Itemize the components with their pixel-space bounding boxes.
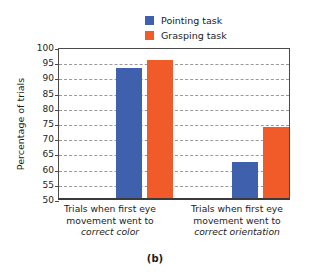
x-axis-label-line: Trials when first eye xyxy=(176,203,298,215)
y-tick-label-90: 90 xyxy=(26,73,54,83)
y-tick-label-85: 85 xyxy=(26,89,54,99)
legend-item-pointing-task: Pointing task xyxy=(145,14,285,27)
x-axis-label-line: movement went to xyxy=(52,215,168,227)
y-tick-label-65: 65 xyxy=(26,149,54,159)
y-axis-tick-labels: 10095908580757065605550 xyxy=(26,48,54,200)
panel-caption: (b) xyxy=(0,253,310,264)
y-tick-label-55: 55 xyxy=(26,180,54,190)
legend-item-grasping-task: Grasping task xyxy=(145,29,285,42)
bar-0-0 xyxy=(116,68,142,198)
x-axis-label-line: correct orientation xyxy=(176,226,298,238)
y-tick-label-95: 95 xyxy=(26,58,54,68)
legend-swatch-grasping-task xyxy=(145,31,154,40)
bar-0-1 xyxy=(232,162,258,198)
y-tick-label-100: 100 xyxy=(26,43,54,53)
plot-area xyxy=(58,48,290,200)
legend-label-grasping-task: Grasping task xyxy=(161,30,227,41)
y-tick-50 xyxy=(55,201,59,202)
chart-legend: Pointing task Grasping task xyxy=(145,14,285,44)
legend-label-pointing-task: Pointing task xyxy=(161,15,222,26)
x-axis-label-line: Trials when first eye xyxy=(52,203,168,215)
x-axis-category-label-1: Trials when first eyemovement went tocor… xyxy=(176,203,298,238)
bar-1-1 xyxy=(263,127,289,198)
y-tick-label-50: 50 xyxy=(26,195,54,205)
bar-1-0 xyxy=(147,60,173,198)
y-tick-label-80: 80 xyxy=(26,104,54,114)
y-tick-label-70: 70 xyxy=(26,134,54,144)
legend-swatch-pointing-task xyxy=(145,16,154,25)
x-axis-label-line: movement went to xyxy=(176,215,298,227)
x-axis-category-label-0: Trials when first eyemovement went tocor… xyxy=(52,203,168,238)
y-tick-label-60: 60 xyxy=(26,165,54,175)
x-axis-label-line: correct color xyxy=(52,226,168,238)
y-tick-label-75: 75 xyxy=(26,119,54,129)
bars-layer xyxy=(59,49,289,198)
